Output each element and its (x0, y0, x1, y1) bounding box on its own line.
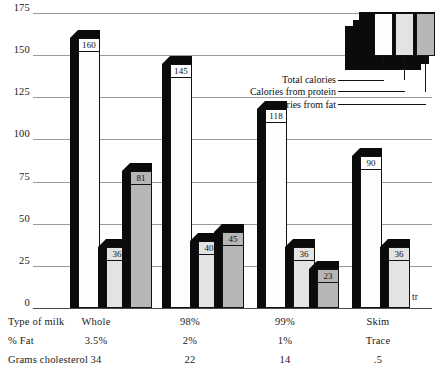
table-cell: 3.5% (61, 334, 131, 347)
bar-value-label: 90 (361, 157, 381, 170)
legend-leader-fat (338, 104, 426, 105)
table-cell: 14 (250, 353, 320, 366)
data-table: Type of milkWhole98%99%Skim% Fat3.5%2%1%… (0, 313, 435, 373)
legend-swatch-calories-from-fat (416, 13, 435, 56)
legend-tick-total (383, 56, 384, 69)
calories-in-milk-chart: 0255075100125150175 16036811454045118362… (0, 0, 435, 373)
table-row-header: Type of milk (8, 315, 65, 328)
legend-tick-protein (404, 56, 405, 80)
bar-value-label: 36 (389, 248, 409, 261)
legend-label-calories-from-fat: Calories from fat (178, 99, 336, 110)
bar-skim-calories-from-protein: 36 (380, 239, 410, 308)
table-cell: Trace (343, 334, 413, 347)
table-cell: Whole (61, 315, 131, 328)
table-cell: 1% (250, 334, 320, 347)
table-cell: 99% (250, 315, 320, 328)
table-cell: .5 (343, 353, 413, 366)
table-row: % Fat3.5%2%1%Trace (0, 334, 435, 353)
table-cell: 34 (61, 353, 131, 366)
plot-area: 0255075100125150175 16036811454045118362… (0, 0, 435, 313)
legend-swatch-total-calories (374, 13, 393, 56)
table-cell: Skim (343, 315, 413, 328)
table-row-header: % Fat (8, 334, 34, 347)
legend (345, 12, 435, 74)
table-cell: 98% (155, 315, 225, 328)
trace-annotation: tr (412, 292, 418, 302)
bar-front-face: 36 (388, 247, 410, 308)
legend-leader-protein (338, 91, 405, 92)
legend-label-calories-from-protein: Calories from protein (178, 86, 336, 97)
legend-leader-total (338, 80, 384, 81)
table-row: Grams cholesterol342214.5 (0, 353, 435, 372)
table-row: Type of milkWhole98%99%Skim (0, 315, 435, 334)
bar-front-face: 90 (360, 156, 382, 308)
table-cell: 2% (155, 334, 225, 347)
legend-swatch-calories-from-protein (395, 13, 414, 56)
legend-label-total-calories: Total calories (178, 74, 336, 85)
table-cell: 22 (155, 353, 225, 366)
legend-tick-fat (425, 56, 426, 92)
bar-skim-total-calories: 90 (352, 148, 382, 308)
